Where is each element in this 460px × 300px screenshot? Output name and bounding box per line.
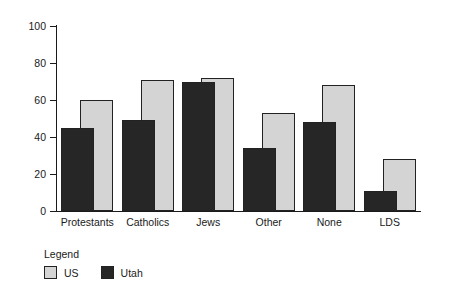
bar-utah bbox=[182, 82, 215, 212]
bar-group bbox=[178, 26, 239, 211]
y-axis-tick bbox=[50, 174, 56, 175]
bar-group bbox=[360, 26, 421, 211]
x-axis-label: LDS bbox=[360, 216, 421, 228]
x-axis-label: Protestants bbox=[57, 216, 118, 228]
y-axis-tick bbox=[50, 63, 56, 64]
legend-swatch-utah bbox=[101, 266, 114, 279]
legend-swatch-us bbox=[44, 266, 57, 279]
legend-items: USUtah bbox=[44, 266, 165, 279]
x-axis-label: Other bbox=[239, 216, 300, 228]
bar-utah bbox=[303, 122, 336, 211]
bar-group bbox=[118, 26, 179, 211]
bar-chart: 100806040200 ProtestantsCatholicsJewsOth… bbox=[0, 0, 460, 300]
bar-utah bbox=[364, 191, 397, 211]
bar-utah bbox=[122, 120, 155, 211]
x-axis-line bbox=[56, 211, 421, 212]
y-axis-tick bbox=[50, 211, 56, 212]
legend-label: Utah bbox=[121, 267, 143, 279]
legend-label: US bbox=[64, 267, 79, 279]
y-axis-tick-label: 40 bbox=[0, 132, 46, 142]
y-axis-tick bbox=[50, 137, 56, 138]
x-axis-label: None bbox=[299, 216, 360, 228]
bar-utah bbox=[243, 148, 276, 211]
x-axis-label: Jews bbox=[178, 216, 239, 228]
bar-utah bbox=[61, 128, 94, 211]
y-axis-tick-label: 80 bbox=[0, 58, 46, 68]
y-axis-tick bbox=[50, 100, 56, 101]
bar-group bbox=[239, 26, 300, 211]
bar-group bbox=[57, 26, 118, 211]
legend-item-us[interactable]: US bbox=[44, 266, 79, 279]
plot-area bbox=[57, 26, 420, 211]
chart-legend: Legend USUtah bbox=[44, 248, 165, 279]
y-axis-tick-label: 0 bbox=[0, 206, 46, 216]
y-axis-tick-label: 60 bbox=[0, 95, 46, 105]
y-axis-tick bbox=[50, 26, 56, 27]
x-axis-label: Catholics bbox=[118, 216, 179, 228]
y-axis-tick-label: 100 bbox=[0, 21, 46, 31]
legend-item-utah[interactable]: Utah bbox=[101, 266, 143, 279]
y-axis-tick-label: 20 bbox=[0, 169, 46, 179]
bar-group bbox=[299, 26, 360, 211]
legend-title: Legend bbox=[44, 248, 165, 260]
